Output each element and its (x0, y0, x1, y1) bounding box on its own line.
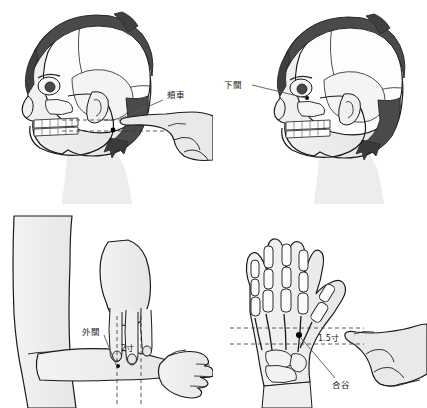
pointing-hand-hegu (345, 324, 427, 386)
nail-ring (143, 346, 152, 356)
lower-teeth (286, 129, 330, 138)
label-xiaguan: 下關 (224, 80, 243, 90)
eye-iris (45, 82, 55, 92)
acupoint-dot-hegu (296, 332, 302, 338)
bones-middle (281, 244, 291, 312)
label-waiguan: 外關 (82, 327, 101, 337)
nail-middle (128, 354, 137, 364)
bones-little (251, 260, 260, 316)
upper-teeth (34, 118, 78, 128)
acupoint-chart-page: 頰車 (0, 0, 427, 408)
head-figure-xiaguan (274, 14, 405, 204)
wrist (262, 382, 312, 408)
hand-skeleton-hegu (246, 239, 345, 408)
panel-hegu: 合谷 1.5寸 (214, 204, 427, 408)
measure-label-waiguan: 2寸 (121, 343, 134, 353)
panel-jiache: 頰車 (0, 0, 213, 204)
head-figure-jiache (22, 12, 153, 204)
open-hand (158, 352, 213, 399)
measure-label-hegu: 1.5寸 (318, 333, 339, 343)
arm-figure-waiguan (13, 216, 213, 408)
bones-ring (298, 250, 308, 314)
bones-index (263, 246, 273, 312)
label-jiache: 頰車 (167, 90, 186, 100)
acupoint-dot-jiache (111, 128, 116, 133)
eye-iris (297, 84, 307, 94)
forearm (36, 349, 176, 381)
label-hegu: 合谷 (332, 380, 351, 390)
panel-waiguan: 外關 2寸 (0, 204, 213, 408)
upper-teeth (286, 120, 330, 130)
lower-teeth (34, 127, 78, 136)
panel-xiaguan: 下關 (214, 0, 427, 204)
